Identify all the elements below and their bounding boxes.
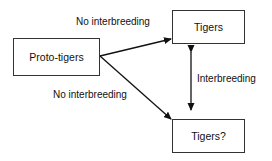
node-label: Tigers? [191,130,226,142]
arrow-proto-to-tigers-q [100,56,171,119]
node-label: Tigers [194,21,223,33]
edge-label-top: No interbreeding [76,16,150,27]
node-tigers-question: Tigers? [172,119,245,153]
arrow-proto-to-tigers [100,39,171,56]
node-label: Proto-tigers [29,51,83,63]
node-tigers: Tigers [172,10,245,44]
edge-label-vertical: Interbreeding [197,73,256,84]
edge-label-bottom: No interbreeding [53,89,127,100]
node-proto-tigers: Proto-tigers [13,38,100,76]
